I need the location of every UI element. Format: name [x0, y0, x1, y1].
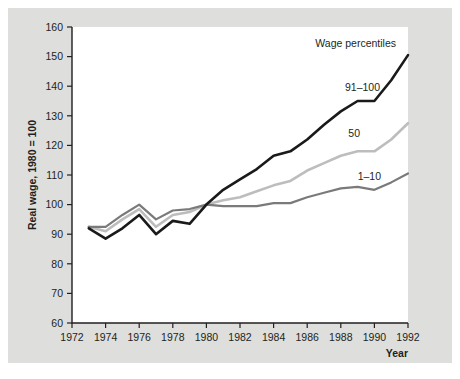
chart-container: 60708090100110120130140150160 1972197419…	[0, 0, 460, 379]
y-tick-label: 70	[51, 287, 63, 299]
x-tick-label: 1988	[329, 331, 353, 343]
x-tick-label: 1978	[161, 331, 185, 343]
x-tick-label: 1984	[262, 331, 286, 343]
x-tick-label: 1972	[60, 331, 84, 343]
legend-title: Wage percentiles	[315, 37, 396, 49]
y-tick-label: 60	[51, 317, 63, 329]
series-label-50: 50	[348, 127, 360, 139]
y-axis-tick-labels: 60708090100110120130140150160	[45, 21, 63, 329]
series-label-91-100: 91–100	[345, 81, 380, 93]
wage-percentile-line-chart: 60708090100110120130140150160 1972197419…	[0, 0, 460, 379]
y-tick-label: 110	[46, 169, 63, 181]
x-tick-label: 1974	[94, 331, 118, 343]
x-tick-label: 1992	[396, 331, 420, 343]
x-tick-label: 1990	[363, 331, 387, 343]
y-tick-label: 150	[45, 50, 63, 62]
y-tick-label: 100	[45, 198, 63, 210]
x-axis-title: Year	[386, 347, 408, 359]
y-tick-label: 80	[51, 258, 63, 270]
x-tick-label: 1976	[128, 331, 152, 343]
y-axis-ticks	[67, 27, 72, 323]
y-axis-title: Real wage, 1980 = 100	[26, 120, 38, 230]
y-tick-label: 130	[45, 110, 63, 122]
y-tick-label: 90	[51, 228, 63, 240]
figure-root: 60708090100110120130140150160 1972197419…	[0, 0, 460, 379]
series-label-1-10: 1–10	[358, 170, 382, 182]
x-tick-label: 1986	[296, 331, 320, 343]
x-axis-ticks	[72, 323, 408, 328]
y-tick-label: 120	[45, 139, 63, 151]
y-tick-label: 140	[45, 80, 63, 92]
y-tick-label: 160	[45, 21, 63, 33]
x-tick-label: 1982	[228, 331, 252, 343]
x-axis-tick-labels: 1972197419761978198019821984198619881990…	[60, 331, 420, 343]
x-tick-label: 1980	[195, 331, 219, 343]
